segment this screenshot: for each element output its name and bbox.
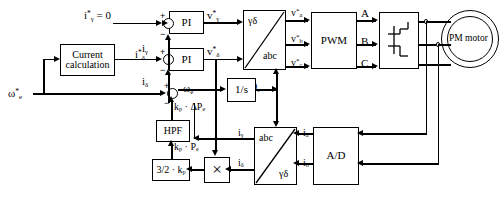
- block-gain-32kp[interactable]: 3/2 · kp: [152, 159, 190, 181]
- wire-multiplier-to-gain: [190, 169, 204, 170]
- wire-sense-a-down: [426, 21, 427, 133]
- block-transform-abc-label: abc: [263, 51, 277, 61]
- block-transform-gd-to-abc[interactable]: γδ abc: [243, 10, 286, 70]
- block-hpf-label: HPF: [164, 126, 182, 137]
- wire-v-delta-ref: [204, 59, 238, 60]
- igbt-transistor-icon: [380, 12, 418, 69]
- block-pwm-label: PWM: [321, 35, 347, 47]
- signal-label-i-gamma-feedback: iγ: [142, 43, 148, 55]
- wire-sense-b-to-ad: [362, 163, 439, 164]
- block-pi-gamma[interactable]: PI: [169, 11, 204, 34]
- block-inverter[interactable]: [379, 12, 419, 69]
- arrow-multiplier-to-gain: [186, 166, 192, 172]
- arrow-v-delta-ref: [237, 56, 243, 62]
- wire-hpf-to-sum: [171, 101, 172, 121]
- block-integrator[interactable]: 1/s: [227, 78, 256, 102]
- block-pi-delta[interactable]: PI: [169, 48, 204, 71]
- arrow-into-integrator: [220, 86, 226, 92]
- signal-label-i-gamma-out: iγ: [238, 128, 244, 139]
- wire-theta-e-vertical: [276, 72, 277, 124]
- arrow-phase-a: [372, 17, 378, 23]
- arrow-omega-e-ref: [160, 90, 166, 96]
- arrow-v-a-ref: [304, 17, 310, 23]
- wire-i-a: [298, 133, 313, 134]
- signal-label-kp-pe: kp · Pe: [174, 142, 199, 153]
- arrow-gain-to-hpf: [168, 140, 174, 146]
- arrow-v-c-ref: [304, 63, 310, 69]
- signal-label-v-delta-ref: v*δ: [207, 46, 219, 58]
- wire-omega-to-current-calc-v: [43, 60, 44, 94]
- signal-label-v-gamma-ref: v*γ: [207, 10, 219, 22]
- block-hpf[interactable]: HPF: [156, 120, 190, 142]
- arrow-theta-e-down: [273, 121, 279, 127]
- block-diagram-canvas: i*γ = 0 i*δ iγ iδ v*γ v*δ v*a v*b v*c A …: [0, 0, 504, 199]
- wire-omega-e-ref: [33, 93, 161, 94]
- block-transform-abc-label-2: abc: [259, 133, 273, 143]
- block-current-calculation[interactable]: Currentcalculation: [60, 44, 115, 76]
- signal-label-omega-e-ref: ω*e: [8, 88, 22, 100]
- wire-motor-phase-c: [419, 64, 451, 65]
- arrow-theta-e-up: [273, 68, 279, 74]
- wire-i-delta-ref: [115, 59, 157, 60]
- block-pwm[interactable]: PWM: [311, 12, 357, 69]
- arrow-v-gamma-ref: [237, 19, 243, 25]
- block-pi-delta-label: PI: [182, 54, 192, 66]
- arrow-v-b-ref: [304, 41, 310, 47]
- motor-label: PM motor: [449, 34, 488, 44]
- wire-omega-e-to-integrator: [178, 89, 221, 90]
- block-integrator-label: 1/s: [235, 84, 248, 96]
- block-ad-converter-label: A/D: [327, 150, 346, 162]
- block-current-calculation-label: Currentcalculation: [66, 50, 110, 71]
- signal-label-i-delta-feedback: iδ: [142, 76, 148, 88]
- arrow-v-delta-into-multiplier: [212, 150, 218, 156]
- signal-label-v-b-ref: v*b: [291, 34, 303, 45]
- block-ad-converter[interactable]: A/D: [313, 127, 359, 185]
- arrow-sense-b-into-ad: [357, 160, 363, 166]
- arrow-phase-c: [372, 63, 378, 69]
- block-transform-abc-to-gd[interactable]: abc γδ: [254, 127, 297, 185]
- wire-sense-a-to-ad: [362, 133, 427, 134]
- signal-label-i-delta-out: iδ: [238, 158, 244, 169]
- arrow-into-pi-gamma: [162, 20, 168, 26]
- wire-sense-b-down: [438, 44, 439, 164]
- signal-label-phase-a: A: [361, 8, 369, 19]
- arrow-i-b: [293, 160, 299, 166]
- arrow-i-delta-ref: [156, 56, 162, 62]
- wire-i-gamma-ref: [113, 23, 157, 24]
- arrow-into-current-calc: [54, 56, 60, 62]
- wire-i-gamma-up: [194, 103, 195, 139]
- wire-i-gamma-out: [198, 138, 254, 139]
- arrow-hpf-to-sum: [168, 96, 174, 102]
- wire-gain-to-hpf: [171, 146, 172, 160]
- arrow-i-gamma-feedback: [165, 34, 171, 40]
- wire-motor-phase-b: [419, 44, 451, 45]
- arrow-phase-b: [372, 41, 378, 47]
- block-multiplier-label: ×: [212, 161, 222, 179]
- arrow-i-a: [293, 130, 299, 136]
- wire-i-gamma-feedback: [168, 40, 169, 70]
- signal-label-kp-delta-pe: kp · ΔPe: [174, 102, 205, 113]
- signal-label-v-a-ref: v*a: [291, 8, 302, 19]
- block-gain-32kp-label: 3/2 · kp: [156, 165, 185, 176]
- signal-label-i-gamma-ref: i*γ = 0: [84, 10, 111, 22]
- block-transform-gd-label: γδ: [248, 16, 257, 26]
- wire-i-delta-out: [230, 169, 254, 170]
- block-pi-gamma-label: PI: [182, 17, 192, 29]
- wire-i-b: [298, 163, 313, 164]
- block-transform-gd-label-2: γδ: [279, 169, 288, 179]
- arrow-i-delta-feedback: [165, 69, 171, 75]
- wire-v-gamma-ref: [204, 22, 238, 23]
- wire-v-delta-branch-down: [215, 59, 216, 151]
- arrow-sense-a-into-ad: [357, 130, 363, 136]
- arrow-i-delta-out: [225, 166, 231, 172]
